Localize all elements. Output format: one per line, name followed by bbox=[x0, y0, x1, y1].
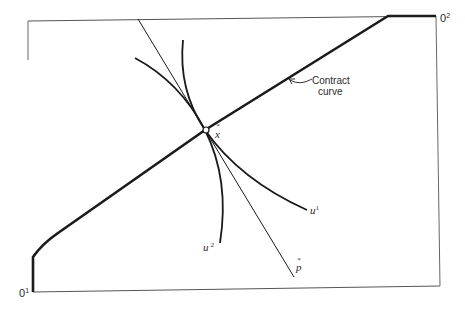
price-line-label: p bbox=[295, 261, 302, 273]
contract-curve-label-line2: curve bbox=[318, 86, 343, 97]
indifference-curve-u2-label: u2 bbox=[203, 241, 215, 253]
contract-curve bbox=[33, 16, 436, 292]
box-outline bbox=[28, 16, 440, 292]
origin-1-label: 01 bbox=[19, 287, 29, 299]
price-line bbox=[138, 19, 294, 277]
equilibrium-point-label: x bbox=[214, 128, 220, 140]
contract-curve-pointer bbox=[290, 79, 312, 83]
equilibrium-point-marker bbox=[203, 127, 209, 133]
edgeworth-box-diagram: 01 02 Contract curve * x * p u1 u2 bbox=[0, 0, 465, 309]
contract-curve-label-line1: Contract bbox=[312, 75, 350, 86]
indifference-curve-u1-label: u1 bbox=[310, 204, 320, 216]
origin-2-label: 02 bbox=[440, 12, 450, 24]
